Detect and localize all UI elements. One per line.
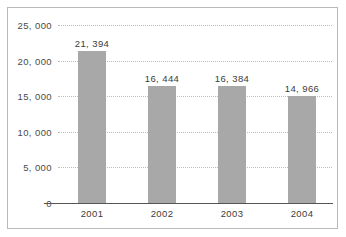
y-tick-label-25000: 25, 000 [0,20,52,31]
bar-chart-figure: 25, 000 20, 000 15, 000 10, 000 5, 000 0… [0,0,346,237]
bar-2003[interactable] [218,86,246,203]
x-tick-label-2001: 2001 [81,208,104,219]
y-tick-label-10000: 10, 000 [0,126,52,137]
bar-value-label-2001: 21, 394 [75,38,110,49]
y-tick-label-15000: 15, 000 [0,91,52,102]
bar-value-label-2004: 14, 966 [285,83,320,94]
bar-value-label-2003: 16, 384 [215,73,250,84]
bar-value-label-2002: 16, 444 [145,73,180,84]
bar-series [58,25,332,203]
x-tick-label-2004: 2004 [291,208,314,219]
x-axis-line [44,203,333,204]
y-axis-tick-labels: 25, 000 20, 000 15, 000 10, 000 5, 000 0 [0,0,52,237]
bar-2004[interactable] [288,96,316,203]
x-tick-label-2003: 2003 [221,208,244,219]
y-tick-label-20000: 20, 000 [0,55,52,66]
bar-2001[interactable] [78,51,106,203]
bar-2002[interactable] [148,86,176,203]
x-tick-label-2002: 2002 [151,208,174,219]
y-tick-label-5000: 5, 000 [0,162,52,173]
